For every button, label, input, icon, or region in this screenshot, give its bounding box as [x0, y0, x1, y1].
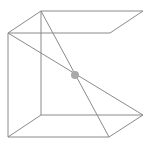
edge-top-right-depth — [110, 11, 143, 33]
edge-top-left-depth — [8, 11, 41, 33]
cube-diagram — [0, 0, 151, 143]
center-point-marker — [71, 71, 79, 79]
edge-bottom-left-depth — [8, 115, 41, 137]
edge-bottom-right-depth — [109, 115, 143, 137]
